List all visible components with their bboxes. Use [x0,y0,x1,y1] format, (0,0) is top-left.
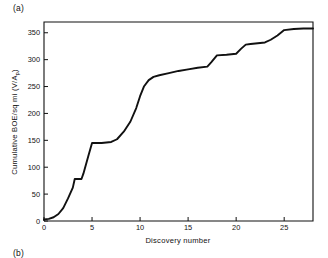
panel-label-b: (b) [13,248,24,258]
x-axis-title: Discovery number [145,236,210,245]
data-series-line [44,28,313,219]
y-axis-title: Cumulative BOE/sq mi (V/Ap) [10,69,20,175]
x-tick-label: 25 [280,223,288,232]
figure-panel-a: (a) (b) 050100150200250300350 0510152025… [0,0,328,258]
y-tick-label: 300 [28,55,40,64]
y-axis-ticks: 050100150200250300350 [28,28,48,225]
y-tick-label: 0 [36,217,40,226]
y-tick-label: 150 [28,136,40,145]
y-tick-label: 250 [28,82,40,91]
y-tick-label: 50 [32,190,40,199]
x-tick-label: 0 [42,223,46,232]
x-tick-label: 20 [232,223,240,232]
cumulative-discovery-chart: 050100150200250300350 0510152025 Discove… [0,0,328,258]
y-tick-label: 200 [28,109,40,118]
panel-label-a: (a) [13,3,24,13]
y-tick-label: 350 [28,28,40,37]
x-tick-label: 10 [136,223,144,232]
x-axis-ticks: 0510152025 [42,217,288,232]
y-tick-label: 100 [28,163,40,172]
plot-frame [44,22,313,221]
x-tick-label: 5 [90,223,94,232]
x-tick-label: 15 [184,223,192,232]
